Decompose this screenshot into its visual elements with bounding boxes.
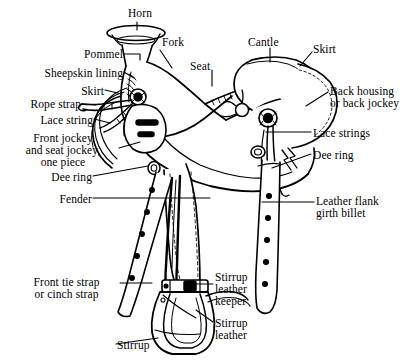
label-skirt-left: Skirt bbox=[58, 86, 104, 98]
label-fork: Fork bbox=[162, 37, 208, 49]
dee-ring-right-shape bbox=[251, 146, 265, 158]
concho-left bbox=[130, 89, 146, 105]
concho-right bbox=[259, 109, 277, 127]
label-dee-ring-left: Dee ring bbox=[30, 172, 92, 184]
label-leather-flank-billet: Leather flank girth billet bbox=[316, 196, 396, 220]
label-rope-strap: Rope strap bbox=[8, 99, 81, 111]
label-skirt-right: Skirt bbox=[313, 44, 355, 56]
label-pommel: Pommel bbox=[55, 49, 123, 61]
dee-ring-left-shape bbox=[148, 162, 160, 175]
label-front-tie-strap: Front tie strap or cinch strap bbox=[14, 277, 119, 301]
label-stirrup-leather-keeper: Stirrup leather keeper bbox=[215, 272, 275, 307]
front-jockey-shape bbox=[124, 105, 167, 153]
leader-skirt-right bbox=[300, 52, 312, 66]
leader-pommel bbox=[124, 54, 140, 60]
label-stirrup: Stirrup bbox=[117, 340, 169, 352]
label-horn: Horn bbox=[117, 8, 163, 20]
label-sheepskin-lining: Sheepskin lining bbox=[18, 68, 123, 80]
saddle-diagram-figure: HornForkCantleSkirtSeatPommelSheepskin l… bbox=[0, 0, 415, 364]
leader-dee-ring-right bbox=[272, 154, 311, 168]
stirrup-leather-keeper-shape bbox=[162, 280, 208, 292]
label-front-and-seat-jockey: Front jockey and seat jockey, one piece bbox=[8, 133, 118, 168]
label-seat: Seat bbox=[190, 61, 230, 73]
label-lace-string: Lace string bbox=[20, 115, 93, 127]
label-dee-ring-right: Dee ring bbox=[313, 150, 375, 162]
label-fender: Fender bbox=[37, 194, 92, 206]
leader-lace-string bbox=[94, 119, 110, 123]
label-back-housing: Back housing or back jockey bbox=[330, 86, 414, 110]
label-lace-strings: Lace strings bbox=[313, 128, 393, 140]
label-stirrup-leather: Stirrup leather bbox=[215, 318, 275, 342]
leader-fork bbox=[160, 50, 172, 68]
billet-tassel bbox=[282, 148, 297, 170]
label-cantle: Cantle bbox=[248, 37, 302, 49]
